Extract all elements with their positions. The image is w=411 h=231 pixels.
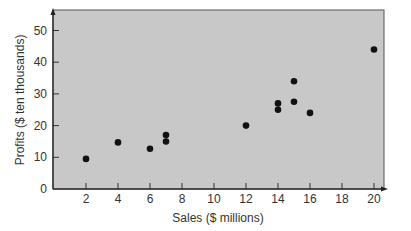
y-tick-label: 0 <box>40 182 47 196</box>
data-point <box>307 110 314 117</box>
plot-area <box>53 10 384 189</box>
x-tick-label: 14 <box>271 192 285 206</box>
data-point <box>147 145 154 152</box>
y-tick-label: 40 <box>34 55 48 69</box>
y-tick-label: 10 <box>34 150 48 164</box>
x-tick-label: 16 <box>303 192 317 206</box>
x-tick-label: 18 <box>335 192 349 206</box>
x-tick-label: 6 <box>147 192 154 206</box>
x-axis-label: Sales ($ millions) <box>172 211 263 225</box>
data-point <box>275 106 282 113</box>
x-tick-label: 4 <box>115 192 122 206</box>
x-tick-label: 12 <box>239 192 253 206</box>
y-tick-label: 50 <box>34 24 48 38</box>
x-tick-label: 8 <box>179 192 186 206</box>
scatter-chart: 01020304050 2468101214161820 Sales ($ mi… <box>0 0 411 231</box>
data-point <box>163 132 170 139</box>
data-point <box>115 139 122 146</box>
data-point <box>291 78 298 85</box>
data-point <box>243 122 250 129</box>
data-point <box>291 99 298 106</box>
data-point <box>275 100 282 107</box>
x-tick-label: 10 <box>207 192 221 206</box>
y-axis-label: Profits ($ ten thousands) <box>13 35 27 166</box>
y-tick-label: 20 <box>34 119 48 133</box>
y-tick-label: 30 <box>34 87 48 101</box>
data-point <box>83 156 90 163</box>
x-tick-label: 2 <box>83 192 90 206</box>
x-tick-label: 20 <box>367 192 381 206</box>
data-point <box>163 138 170 145</box>
data-point <box>371 46 378 53</box>
